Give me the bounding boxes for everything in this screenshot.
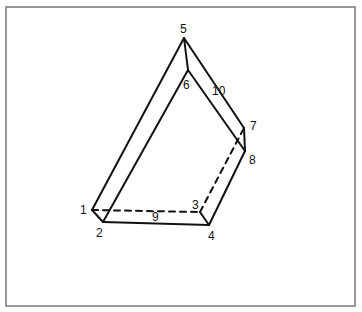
figure-frame [6,7,355,306]
face-label-9: 9 [152,210,159,224]
vertex-label-3: 3 [192,198,199,212]
face-labels-group: 910 [152,84,226,224]
face-label-10: 10 [212,84,226,98]
vertex-label-2: 2 [96,226,103,240]
vertex-label-4: 4 [208,229,215,243]
vertex-label-5: 5 [180,22,187,36]
edges-group [92,38,245,225]
edge-3-4 [200,212,209,225]
edge-1-2 [92,210,103,222]
edge-5-7 [184,38,244,128]
vertex-label-8: 8 [249,153,256,167]
edge-2-6 [103,70,188,222]
edge-7-8 [244,128,245,151]
edge-1-5 [92,38,184,210]
vertex-label-1: 1 [80,203,87,217]
vertex-label-7: 7 [250,119,257,133]
polyhedron-diagram: 12345678 910 [0,0,362,312]
vertex-label-6: 6 [183,78,190,92]
edge-6-8 [188,70,245,151]
